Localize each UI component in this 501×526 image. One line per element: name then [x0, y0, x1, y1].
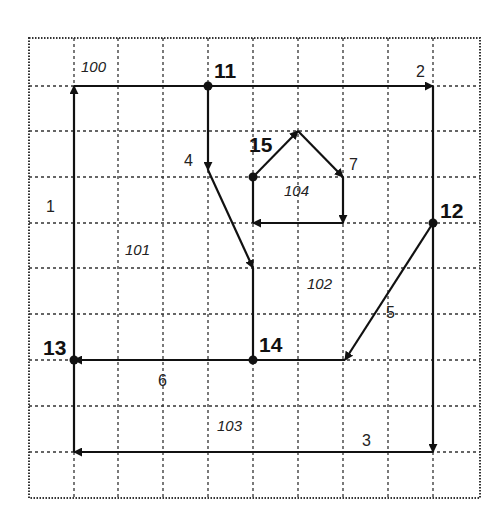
grid — [29, 38, 480, 498]
edge-label: 6 — [158, 372, 167, 389]
edge-label: 1 — [46, 198, 55, 215]
node-14 — [249, 356, 258, 365]
node-label: 11 — [214, 59, 237, 82]
planar-graph-diagram: 12345671112131415100101102103104 — [0, 0, 501, 526]
node-11 — [204, 82, 213, 91]
node-13 — [70, 356, 79, 365]
node-12 — [429, 219, 438, 228]
edge-label: 7 — [349, 156, 358, 173]
face-label: 104 — [284, 182, 309, 199]
node-label: 13 — [43, 336, 66, 359]
face-label: 100 — [81, 58, 107, 75]
edge-label: 3 — [362, 432, 371, 449]
node-label: 14 — [259, 333, 283, 356]
node-label: 12 — [440, 199, 463, 222]
edge-label: 2 — [416, 63, 425, 80]
face-label: 103 — [217, 417, 243, 434]
face-label: 101 — [125, 241, 150, 258]
edge-label: 4 — [184, 152, 193, 169]
edge-5 — [345, 223, 433, 360]
edge-label: 5 — [386, 304, 395, 321]
node-15 — [249, 173, 258, 182]
edge-4b — [208, 170, 253, 268]
node-label: 15 — [249, 133, 273, 156]
edge-7b — [298, 131, 343, 177]
face-label: 102 — [307, 275, 333, 292]
